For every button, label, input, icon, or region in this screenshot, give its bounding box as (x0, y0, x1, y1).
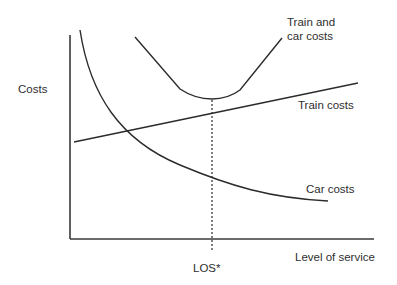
car-costs-label: Car costs (306, 183, 355, 196)
total-costs-curve (135, 37, 282, 99)
total-costs-label-line2: car costs (287, 30, 333, 43)
train-costs-label: Train costs (298, 99, 354, 112)
total-costs-label-line1: Train and (287, 16, 335, 29)
x-axis-label: Level of service (295, 251, 375, 264)
cost-diagram (0, 0, 397, 285)
y-axis-label: Costs (18, 83, 47, 96)
los-optimum-label: LOS* (193, 262, 221, 275)
train-costs-line (74, 83, 358, 142)
